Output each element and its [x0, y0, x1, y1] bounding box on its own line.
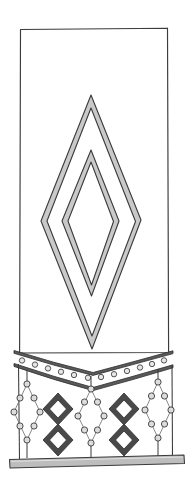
band-bead: [137, 365, 142, 370]
bead: [17, 423, 23, 429]
fabric-panel-outline: [20, 28, 169, 353]
bead: [94, 399, 100, 405]
textile-panel-figure: Hand-drawn illustration of a long fabric…: [0, 0, 194, 485]
illustration-canvas: Hand-drawn illustration of a long fabric…: [0, 0, 194, 485]
bead: [31, 395, 37, 401]
bead: [168, 407, 174, 413]
band-bead: [71, 372, 76, 377]
bead: [81, 399, 87, 405]
bead: [161, 393, 167, 399]
bead: [75, 413, 81, 419]
bead: [24, 437, 30, 443]
bead: [37, 409, 43, 415]
band-bead: [124, 368, 129, 373]
bead: [11, 409, 17, 415]
band-bead: [111, 372, 116, 377]
band-bead: [45, 366, 50, 371]
band-bead: [98, 374, 103, 379]
bead: [148, 393, 154, 399]
bead: [161, 421, 167, 427]
bead: [155, 379, 161, 385]
band-bead: [149, 361, 154, 366]
band-bead: [19, 358, 24, 363]
bead: [81, 427, 87, 433]
bead: [31, 423, 37, 429]
bead: [101, 413, 107, 419]
band-bead: [58, 369, 63, 374]
bead: [17, 395, 23, 401]
band-bead: [161, 358, 166, 363]
bead: [94, 427, 100, 433]
bead: [88, 440, 94, 446]
bead: [142, 407, 148, 413]
bead: [24, 381, 30, 387]
bead: [88, 386, 94, 392]
bead: [155, 435, 161, 441]
band-bead: [85, 375, 90, 380]
band-bead: [32, 362, 37, 367]
bead: [148, 421, 154, 427]
